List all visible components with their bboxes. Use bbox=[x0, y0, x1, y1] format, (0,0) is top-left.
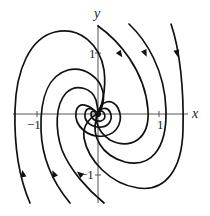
y-axis-label: y bbox=[92, 6, 101, 21]
direction-arrow-icon bbox=[141, 49, 149, 58]
y-tick-label-pos1: 1 bbox=[89, 46, 96, 61]
equilibrium-point bbox=[95, 111, 101, 117]
x-axis-label: x bbox=[191, 106, 199, 121]
phase-portrait: −1 1 1 −1 x y bbox=[0, 0, 210, 216]
direction-arrow-icon bbox=[173, 49, 180, 57]
x-tick-label-pos1: 1 bbox=[157, 117, 164, 132]
x-tick-label-neg1: −1 bbox=[27, 117, 41, 132]
trajectory-t2 bbox=[95, 24, 166, 163]
